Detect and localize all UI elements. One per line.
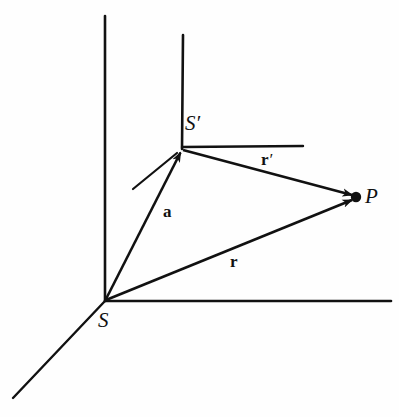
label-vector-a: a <box>163 203 172 220</box>
axis-s-diagonal <box>13 301 105 398</box>
vector-a-arrow <box>105 153 181 302</box>
label-point-s-prime-text: S <box>185 111 196 135</box>
label-point-s-text: S <box>98 308 109 332</box>
axis-sprime-vertical <box>182 35 183 149</box>
point-p-dot <box>351 192 361 202</box>
label-vector-r-prime-text: r <box>261 150 269 169</box>
label-vector-r-prime-mark: ′ <box>269 150 273 169</box>
label-vector-r: r <box>230 253 238 270</box>
figure-canvas: S S′ P a r′ r <box>0 0 399 417</box>
label-point-s: S <box>98 310 109 331</box>
label-point-p-text: P <box>365 184 378 208</box>
axis-sprime-horizontal <box>182 146 303 147</box>
vector-r-arrow <box>106 200 352 300</box>
label-vector-r-text: r <box>230 252 238 271</box>
label-vector-r-prime: r′ <box>261 151 272 168</box>
label-vector-a-text: a <box>163 202 172 221</box>
vectors-group <box>105 150 352 301</box>
vector-diagram-svg <box>0 0 399 417</box>
label-point-p: P <box>365 186 378 207</box>
label-point-s-prime: S′ <box>185 113 200 134</box>
label-point-s-prime-mark: ′ <box>196 111 201 135</box>
